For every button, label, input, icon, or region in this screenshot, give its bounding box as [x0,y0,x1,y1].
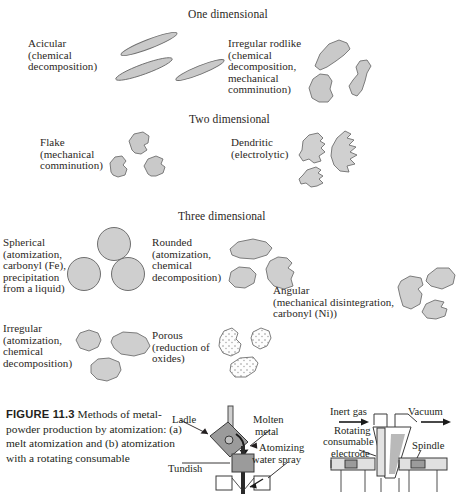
label-dendritic-line-1: Dendritic [231,137,289,149]
shapes-acicular [108,28,233,90]
diagram-label-molten: Molten [253,414,284,426]
shapes-irregular [71,327,163,389]
label-acicular-line-3: decomposition) [28,61,97,73]
label-irregular: Irregular (atomization, chemical decompo… [3,323,72,369]
label-angular-line-1: Angular [273,285,394,297]
diagram-label-ladle: Ladle [172,414,196,426]
figure-page: One dimensional Two dimensional Three di… [0,0,457,495]
shapes-angular [392,262,457,320]
label-spherical-line-1: Spherical [3,237,66,249]
diagram-label-water-spray: water spray [252,454,301,466]
diagram-label-consumable: consumable [323,436,374,448]
label-dendritic: Dendritic (electrolytic) [231,137,289,160]
label-flake-line-1: Flake [40,137,103,149]
shapes-irregular-rodlike [303,36,389,104]
diagram-label-spindle: Spindle [412,440,444,452]
label-acicular: Acicular (chemical decomposition) [28,38,97,73]
label-rounded: Rounded (atomization, chemical decomposi… [152,237,221,283]
diagram-label-electrode: electrode [331,448,370,460]
label-irregular-rodlike-line-5: comminution) [228,84,301,96]
heading-one-dimensional: One dimensional [188,8,268,20]
label-flake-line-3: comminution) [40,160,103,172]
label-rounded-line-1: Rounded [152,237,221,249]
heading-three-dimensional: Three dimensional [178,210,266,222]
label-irregular-rodlike-line-1: Irregular rodlike [228,38,301,50]
label-spherical-line-5: from a liquid) [3,283,66,295]
label-rounded-line-4: decomposition) [152,272,221,284]
shapes-flake [108,130,188,184]
label-irregular-line-4: decomposition) [3,358,72,370]
label-porous-line-3: oxides) [152,353,210,365]
label-angular-line-3: carbonyl (Ni)) [273,308,394,320]
label-irregular-rodlike: Irregular rodlike (chemical decompositio… [228,38,301,96]
label-acicular-line-1: Acicular [28,38,97,50]
label-porous-line-1: Porous [152,330,210,342]
shapes-spherical [66,226,154,294]
diagram-label-vacuum: Vacuum [408,406,443,418]
diagram-label-inert-gas: Inert gas [330,406,367,418]
figure-number: FIGURE 11.3 [6,408,75,420]
label-irregular-line-1: Irregular [3,323,72,335]
diagram-label-metal: metal [255,426,279,438]
shapes-porous [215,326,305,390]
diagram-label-tundish: Tundish [168,463,202,475]
label-porous: Porous (reduction of oxides) [152,330,210,365]
label-flake: Flake (mechanical comminution) [40,137,103,172]
label-spherical: Spherical (atomization, carbonyl (Fe), p… [3,237,66,295]
diagram-label-atomizing: Atomizing [259,442,304,454]
shapes-dendritic [290,125,378,189]
label-dendritic-line-2: (electrolytic) [231,149,289,161]
heading-two-dimensional: Two dimensional [189,113,270,125]
label-angular: Angular (mechanical disintegration, carb… [273,285,394,320]
